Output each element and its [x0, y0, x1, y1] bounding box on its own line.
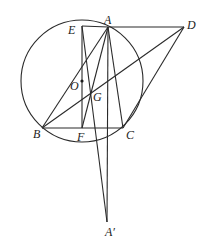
point-markers: [80, 79, 83, 82]
label-point-e: E: [67, 23, 76, 37]
label-point-d: D: [186, 18, 196, 32]
label-point-a: A: [103, 13, 112, 27]
segment-b-d: [42, 27, 184, 128]
segment-a-f: [82, 27, 108, 128]
label-point-f: F: [76, 130, 85, 144]
point-o-marker: [80, 79, 83, 82]
geometry-diagram: ABCDEFGOA′: [0, 0, 208, 244]
segment-a-c: [108, 27, 123, 128]
label-point-g: G: [93, 90, 102, 104]
segment-c-d: [123, 27, 184, 128]
label-point-a-prime: A′: [104, 225, 115, 239]
label-point-o: O: [70, 79, 79, 93]
segments: [42, 26, 184, 222]
segment-e-a-prime: [82, 26, 107, 222]
label-point-b: B: [33, 127, 41, 141]
segment-a-b: [42, 27, 108, 128]
label-point-c: C: [126, 128, 135, 142]
segment-a-a-prime: [107, 27, 108, 222]
